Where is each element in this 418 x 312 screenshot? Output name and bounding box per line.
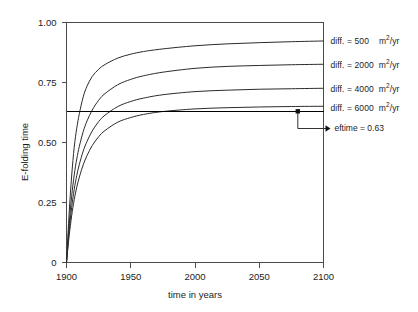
eftime-leader-line xyxy=(298,111,327,128)
eftime-marker xyxy=(296,109,300,113)
legend-item-label: diff. = 4000 xyxy=(331,84,374,94)
y-tick-label: 0 xyxy=(19,258,57,268)
y-axis-title: E-folding time xyxy=(20,122,30,180)
legend-item-diff-2000: diff. = 2000 m2/yr xyxy=(331,61,400,70)
x-tick-label: 2000 xyxy=(170,272,220,282)
legend-item-label: diff. = 6000 xyxy=(331,103,374,113)
curve-diff-4000 xyxy=(67,88,324,262)
curve-diff-6000 xyxy=(67,106,324,262)
y-tick-label: 0.75 xyxy=(19,78,57,88)
legend-item-units: m2/yr xyxy=(379,36,400,46)
data-curves xyxy=(67,41,324,263)
curve-diff-500 xyxy=(67,41,324,263)
x-tick-label: 1900 xyxy=(42,272,92,282)
y-tick-label: 1.00 xyxy=(19,18,57,28)
x-tick-label: 2100 xyxy=(299,272,349,282)
x-tick-label: 2050 xyxy=(234,272,284,282)
legend-item-label: diff. = 2000 xyxy=(331,60,374,70)
chart-canvas xyxy=(0,0,418,312)
legend-item-diff-4000: diff. = 4000 m2/yr xyxy=(331,85,400,94)
plot-frame xyxy=(67,23,324,263)
legend-item-diff-500: diff. = 500 m2/yr xyxy=(331,37,400,46)
y-tick-label: 0.25 xyxy=(19,198,57,208)
legend-item-label: diff. = 500 xyxy=(331,36,370,46)
x-axis-ticks xyxy=(67,263,324,268)
x-tick-label: 1950 xyxy=(106,272,156,282)
legend-item-units: m2/yr xyxy=(379,84,400,94)
legend-item-units: m2/yr xyxy=(379,60,400,70)
curve-diff-2000 xyxy=(67,64,324,262)
legend-item-diff-6000: diff. = 6000 m2/yr xyxy=(331,104,400,113)
axes xyxy=(62,23,324,268)
chart-figure: 19001950200020502100 00.250.500.751.00 t… xyxy=(0,0,418,312)
legend-item-units: m2/yr xyxy=(379,103,400,113)
eftime-annotation-label: eftime = 0.63 xyxy=(335,124,384,133)
annotation-layer xyxy=(67,109,331,132)
eftime-arrow-icon xyxy=(326,125,331,131)
legend-item-spacer xyxy=(369,36,379,46)
y-axis-ticks xyxy=(62,23,67,263)
x-axis-title: time in years xyxy=(125,290,265,300)
